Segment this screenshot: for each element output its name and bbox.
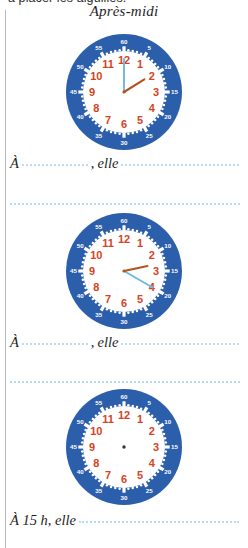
clock-tick-minor xyxy=(84,74,87,77)
clock-hour-number: 2 xyxy=(149,70,155,82)
clock-tick-minor xyxy=(106,484,109,487)
blank-time-1[interactable] xyxy=(22,153,88,166)
clock-centre-pin xyxy=(122,269,125,272)
clock-tick-major xyxy=(159,467,164,470)
clock-tick-major xyxy=(159,69,164,72)
clock-hour-number: 10 xyxy=(90,70,102,82)
blank-activity-1[interactable] xyxy=(121,153,239,166)
clock-tick-minor xyxy=(106,231,109,234)
clock-tick-minor xyxy=(164,278,167,281)
clock-tick-minor xyxy=(136,131,139,134)
clock-tick-minor xyxy=(157,421,160,424)
clock-minute-number: 45 xyxy=(70,88,77,95)
clock-tick-minor xyxy=(163,459,166,462)
clock-tick-minor xyxy=(81,450,84,453)
clock-tick-minor xyxy=(164,82,167,85)
answer-comma-1: , xyxy=(91,155,95,172)
clock-hour-number: 10 xyxy=(90,425,102,437)
clock-hour-number: 7 xyxy=(105,114,111,126)
clock-tick-minor xyxy=(127,404,130,407)
blank-activity-3[interactable] xyxy=(79,510,239,523)
clock-tick-minor xyxy=(151,239,154,242)
clock-minute-number: 40 xyxy=(77,292,84,299)
clock-tick-minor xyxy=(131,405,134,408)
left-margin-rule xyxy=(5,10,6,548)
clock-minute-number: 30 xyxy=(121,494,128,501)
clock-tick-minor xyxy=(157,245,160,248)
clock-tick-minor xyxy=(154,418,157,421)
separator-2 xyxy=(10,381,240,383)
clock-tick-minor xyxy=(164,454,167,457)
clock-tick-major xyxy=(159,112,164,115)
clock-hour-number: 8 xyxy=(93,281,99,293)
clock-hour-number: 8 xyxy=(93,102,99,114)
clock-minute-number: 55 xyxy=(95,223,102,230)
clock-minute-number: 50 xyxy=(77,418,84,425)
clock-tick-minor xyxy=(151,122,154,125)
clock-minute-number: 5 xyxy=(148,44,152,51)
clock-minute-number: 20 xyxy=(164,468,171,475)
clock-tick-minor xyxy=(118,488,121,491)
clock-tick-major xyxy=(144,407,147,412)
clock-tick-minor xyxy=(163,283,166,286)
clock-tick-minor xyxy=(89,245,92,248)
clock-tick-major xyxy=(159,424,164,427)
clock-tick-minor xyxy=(92,298,95,301)
clock-tick-minor xyxy=(163,78,166,81)
clock-tick-minor xyxy=(154,119,157,122)
clock-minute-number: 40 xyxy=(77,113,84,120)
clock-tick-minor xyxy=(127,488,130,491)
clock-hour-number: 9 xyxy=(89,86,95,98)
clock-tick-minor xyxy=(110,310,113,313)
clock-tick-major xyxy=(101,231,104,236)
clock-hour-number: 11 xyxy=(102,237,114,249)
clock-tick-minor xyxy=(83,78,86,81)
clock-tick-major xyxy=(144,231,147,236)
blank-activity-2[interactable] xyxy=(121,332,239,345)
clock-hour-number: 9 xyxy=(89,441,95,453)
clock-tick-minor xyxy=(165,450,168,453)
clock-tick-minor xyxy=(95,239,98,242)
clock-tick-minor xyxy=(95,122,98,125)
clock-tick-minor xyxy=(83,257,86,260)
clock-hour-number: 6 xyxy=(121,473,127,485)
clock-hour-number: 11 xyxy=(102,413,114,425)
clock-tick-minor xyxy=(127,312,130,315)
clock-tick-minor xyxy=(161,429,164,432)
clock-tick-minor xyxy=(140,129,143,132)
clock-tick-minor xyxy=(82,99,85,102)
answer-line-1: À , elle xyxy=(10,155,242,175)
clock-tick-minor xyxy=(118,228,121,231)
clock-tick-minor xyxy=(84,108,87,111)
clock-1: 51015202530354045505560123456789101112 xyxy=(65,33,183,151)
clock-tick-minor xyxy=(89,294,92,297)
clock-tick-minor xyxy=(131,50,134,53)
clock-minute-number: 20 xyxy=(164,292,171,299)
answer-line-2: À , elle xyxy=(10,334,242,354)
separator-1 xyxy=(10,203,240,205)
clock-tick-minor xyxy=(82,454,85,457)
blank-time-2[interactable] xyxy=(22,332,88,345)
clock-tick-minor xyxy=(161,253,164,256)
clock-minute-number: 40 xyxy=(77,468,84,475)
clock-tick-minor xyxy=(89,66,92,69)
clock-tick-minor xyxy=(106,407,109,410)
clock-tick-minor xyxy=(151,415,154,418)
clock-tick-minor xyxy=(83,283,86,286)
clock-tick-minor xyxy=(136,310,139,313)
clock-tick-minor xyxy=(147,236,150,239)
clock-tick-minor xyxy=(118,49,121,52)
clock-tick-minor xyxy=(157,66,160,69)
clock-tick-minor xyxy=(164,99,167,102)
clock-minute-number: 5 xyxy=(148,223,152,230)
clock-minute-number: 25 xyxy=(146,487,153,494)
clock-tick-minor xyxy=(110,406,113,409)
clock-hour-number: 4 xyxy=(149,102,156,114)
clock-hour-number: 3 xyxy=(153,441,159,453)
clock-minute-number: 35 xyxy=(95,311,102,318)
clock-tick-minor xyxy=(118,404,121,407)
clock-tick-minor xyxy=(165,274,168,277)
clock-minute-number: 35 xyxy=(95,132,102,139)
clock-tick-minor xyxy=(127,228,130,231)
clock-minute-number: 15 xyxy=(171,443,178,450)
